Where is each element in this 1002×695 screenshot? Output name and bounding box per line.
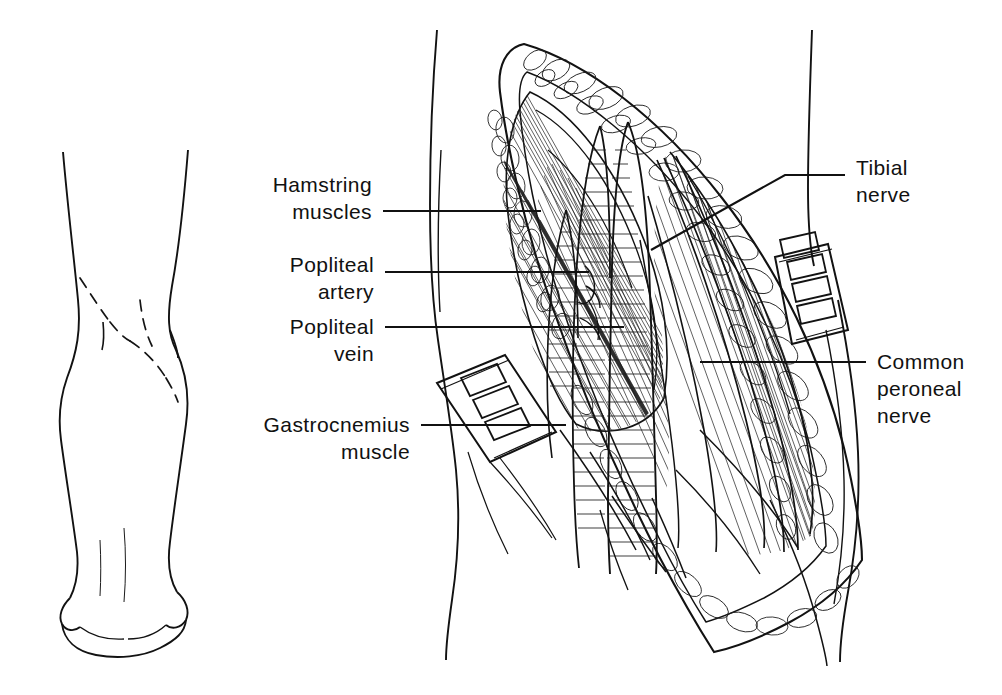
incision-line-dashed	[110, 322, 130, 341]
labels: Hamstring muscles Popliteal artery Popli…	[264, 156, 965, 463]
illustration-canvas: Hamstring muscles Popliteal artery Popli…	[0, 0, 1002, 695]
label-common-peroneal-nerve-line3: nerve	[877, 404, 932, 427]
anatomy-figure-svg: Hamstring muscles Popliteal artery Popli…	[0, 0, 1002, 695]
incision-line-dashed	[140, 300, 152, 346]
incision-line-dashed	[80, 278, 110, 322]
popliteal-artery	[547, 210, 566, 458]
label-tibial-nerve-line2: nerve	[856, 183, 911, 206]
label-tibial-nerve-line1: Tibial	[856, 156, 908, 179]
skin-edge-outer	[499, 44, 862, 652]
incision-line-dashed	[130, 341, 166, 378]
label-gastrocnemius-muscle-line2: muscle	[341, 440, 410, 463]
retractor-right[interactable]	[775, 232, 848, 344]
label-popliteal-artery-line1: Popliteal	[290, 253, 374, 276]
leg-contour-lateral	[808, 30, 814, 266]
label-popliteal-vein-line1: Popliteal	[290, 315, 374, 338]
subcutaneous-fat	[520, 46, 843, 558]
incision-line-dashed	[166, 378, 178, 402]
retractor-left[interactable]	[437, 355, 556, 462]
posterior-leg-orientation-drawing	[60, 150, 188, 657]
label-gastrocnemius-muscle-line1: Gastrocnemius	[264, 413, 410, 436]
label-common-peroneal-nerve-line2: peroneal	[877, 377, 962, 400]
label-hamstring-muscles-line1: Hamstring	[273, 173, 372, 196]
subcutaneous-fat	[486, 109, 573, 341]
label-common-peroneal-nerve-line1: Common	[877, 350, 965, 373]
label-hamstring-muscles-line2: muscles	[292, 200, 372, 223]
label-popliteal-artery-line2: artery	[318, 280, 374, 303]
leg-contour-medial	[430, 30, 458, 660]
label-popliteal-vein-line2: vein	[334, 342, 374, 365]
